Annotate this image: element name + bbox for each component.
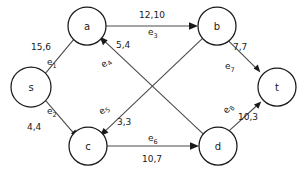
edge-e8-capacity-label: 10,3 — [238, 112, 258, 122]
node-t[interactable]: t — [258, 68, 296, 106]
edge-e4-id-label: e4 — [99, 56, 115, 72]
node-t-label: t — [275, 82, 279, 93]
edge-e2-id-label: e2 — [47, 106, 57, 119]
node-s-label: s — [28, 82, 33, 93]
edge-e8-id-label: e8 — [221, 101, 237, 116]
edge-e7-capacity-label: 7,7 — [233, 42, 247, 52]
edge-e6-capacity-label: 10,7 — [142, 154, 162, 164]
edge-e3-capacity-label: 12,10 — [139, 10, 165, 20]
edge-e5-id-label: e5 — [97, 103, 113, 119]
edge-e3-id-label: e3 — [148, 27, 158, 40]
graph-canvas: 15,6 e1 4,4 e2 12,10 e3 5,4 e4 3,3 e5 10… — [0, 0, 307, 172]
node-s[interactable]: s — [11, 67, 51, 107]
edge-e4-capacity-label: 5,4 — [116, 40, 131, 50]
edge-e5-capacity-label: 3,3 — [117, 117, 131, 127]
node-a-label: a — [84, 21, 90, 32]
node-b-label: b — [214, 21, 220, 32]
edge-e3-arrowhead — [189, 22, 198, 30]
node-c[interactable]: c — [69, 127, 107, 165]
edge-e6-id-label: e6 — [148, 133, 158, 146]
edge-e5[interactable] — [100, 38, 203, 136]
node-a[interactable]: a — [68, 7, 106, 45]
edge-e1-capacity-label: 15,6 — [31, 42, 51, 52]
edge-e6-arrowhead — [190, 142, 199, 150]
edge-e2-capacity-label: 4,4 — [27, 122, 42, 132]
node-c-label: c — [85, 141, 91, 152]
edge-e7-id-label: e7 — [225, 61, 235, 74]
edge-e7-arrowhead — [254, 64, 261, 72]
node-b[interactable]: b — [198, 7, 236, 45]
edge-e1-id-label: e1 — [47, 57, 57, 70]
node-d-label: d — [215, 141, 221, 152]
flow-network-diagram: 15,6 e1 4,4 e2 12,10 e3 5,4 e4 3,3 e5 10… — [0, 0, 307, 172]
edge-e4[interactable] — [100, 37, 204, 135]
node-d[interactable]: d — [199, 127, 237, 165]
